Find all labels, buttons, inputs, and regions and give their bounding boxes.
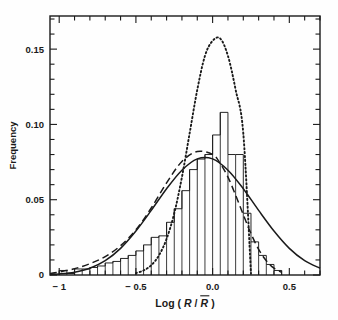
x-tick-label: − 1 xyxy=(52,281,66,292)
y-tick-label: 0.10 xyxy=(26,119,45,130)
histogram-chart: − 1− 0.50.00.5 00.050.100.15 FrequencyLo… xyxy=(0,0,338,320)
x-tick-label: 0.0 xyxy=(206,281,219,292)
x-tick-label: 0.5 xyxy=(283,281,297,292)
y-tick-labels: 00.050.100.15 xyxy=(26,44,45,281)
dashed-curve xyxy=(50,151,282,273)
histogram-outline xyxy=(59,112,281,275)
figure-container: − 1− 0.50.00.5 00.050.100.15 FrequencyLo… xyxy=(0,0,338,320)
x-tick-labels: − 1− 0.50.00.5 xyxy=(52,281,296,292)
y-tick-label: 0.05 xyxy=(26,194,45,205)
y-axis-title: Frequency xyxy=(7,121,18,170)
y-tick-label: 0 xyxy=(39,269,44,280)
solid-curve xyxy=(50,157,320,274)
x-tick-label: − 0.5 xyxy=(125,281,147,292)
histogram-bars xyxy=(59,112,281,275)
fitted-curves xyxy=(50,37,320,274)
axes-frame xyxy=(50,16,320,275)
axis-titles: FrequencyLog (R/R) xyxy=(7,121,215,309)
plot-border xyxy=(50,16,320,275)
dotted-curve xyxy=(136,37,251,273)
y-tick-label: 0.15 xyxy=(26,44,45,55)
x-axis-title: Log (R/R) xyxy=(155,297,214,309)
